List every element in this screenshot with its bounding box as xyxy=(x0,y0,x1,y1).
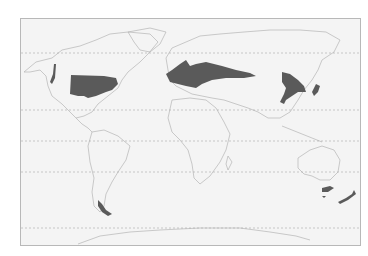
region-tasmania xyxy=(322,196,326,198)
region-eastern-north-america xyxy=(70,75,118,98)
distribution-regions xyxy=(50,60,356,216)
region-east-asia xyxy=(280,72,306,104)
south-america-outline xyxy=(88,130,130,212)
world-map xyxy=(0,0,368,256)
region-southern-chile xyxy=(98,200,112,216)
region-europe-western-asia xyxy=(166,60,256,88)
region-japan xyxy=(312,84,320,96)
land-outlines xyxy=(24,28,340,244)
central-america-outline xyxy=(76,118,92,132)
region-southeast-australia xyxy=(322,186,334,192)
australia-outline xyxy=(298,146,340,180)
region-pacific-northwest xyxy=(50,64,56,84)
greenland-outline xyxy=(128,28,166,52)
region-new-zealand xyxy=(338,190,356,204)
north-america-outline xyxy=(24,32,158,118)
madagascar-outline xyxy=(226,156,232,170)
southeast-asia-outline xyxy=(282,126,322,142)
antarctica-outline xyxy=(78,228,310,244)
